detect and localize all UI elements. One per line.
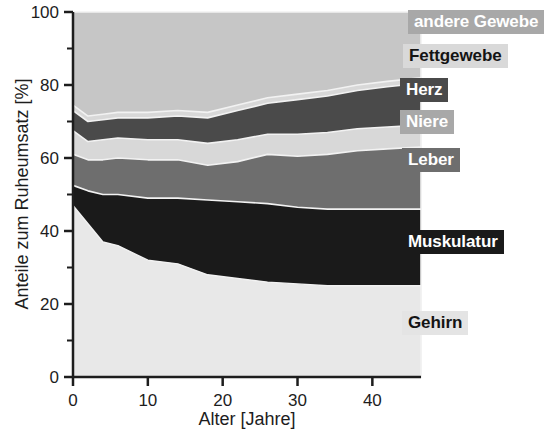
y-tick-label: 100 xyxy=(31,3,59,22)
chart-figure: 020406080100 010203040 Anteile zum Ruheu… xyxy=(0,0,544,433)
y-tick-label: 80 xyxy=(40,76,59,95)
legend-item-niere[interactable]: Niere xyxy=(400,110,454,134)
legend-item-andere-gewebe[interactable]: andere Gewebe xyxy=(408,10,544,34)
legend-label: Leber xyxy=(408,150,454,169)
x-tick-label: 30 xyxy=(288,391,307,410)
y-axis-title: Anteile zum Ruheumsatz [%] xyxy=(12,78,32,309)
legend-item-gehirn[interactable]: Gehirn xyxy=(402,311,468,335)
y-tick-label: 60 xyxy=(40,149,59,168)
legend-label: Niere xyxy=(406,112,448,131)
x-tick-label: 10 xyxy=(138,391,157,410)
y-tick-label: 40 xyxy=(40,222,59,241)
y-tick-label: 0 xyxy=(50,368,59,387)
x-tick-label: 40 xyxy=(363,391,382,410)
legend-item-leber[interactable]: Leber xyxy=(402,148,460,172)
y-tick-label: 20 xyxy=(40,295,59,314)
legend-label: Gehirn xyxy=(408,313,462,332)
x-tick-label: 0 xyxy=(68,391,77,410)
legend-item-fettgewebe[interactable]: Fettgewebe xyxy=(403,44,508,68)
legend-item-herz[interactable]: Herz xyxy=(400,78,448,102)
legend-item-muskulatur[interactable]: Muskulatur xyxy=(402,230,504,254)
legend-label: Muskulatur xyxy=(408,232,498,251)
legend-label: andere Gewebe xyxy=(414,12,538,31)
area-band-group xyxy=(73,12,421,377)
legend-label: Fettgewebe xyxy=(409,46,502,65)
x-tick-label: 20 xyxy=(213,391,232,410)
x-axis-title: Alter [Jahre] xyxy=(198,409,295,429)
legend-label: Herz xyxy=(406,80,442,99)
